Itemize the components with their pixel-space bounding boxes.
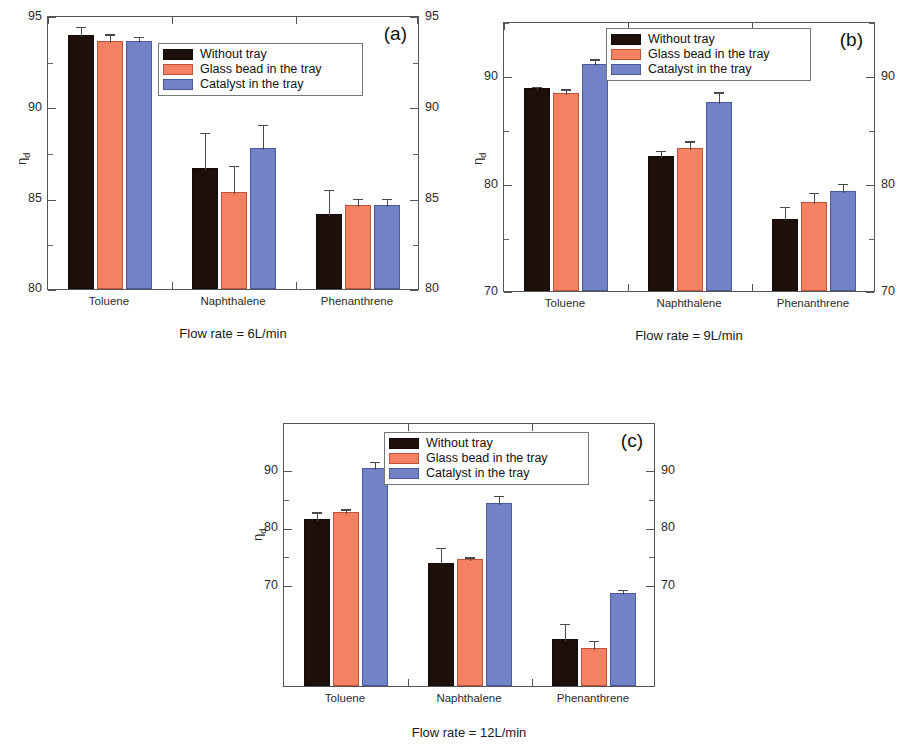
y-tick-label-right-a-90: 90 <box>425 100 455 114</box>
error-cap-a-naphthalene-series1 <box>229 166 239 167</box>
bar-b-phenanthrene-series0 <box>772 219 798 291</box>
error-bar-b-naphthalene-series2 <box>719 92 720 104</box>
panel-tag-c: (c) <box>621 430 643 452</box>
y-tick-label-c-80: 80 <box>244 520 278 534</box>
legend-label-without-tray-c: Without tray <box>426 437 493 450</box>
error-bar-a-naphthalene-series2 <box>263 125 264 151</box>
y-axis-label-a: ηd <box>14 153 32 165</box>
legend-label-without-tray-b: Without tray <box>648 33 715 46</box>
plot-area-a: (a) Without tray Glass bead in the tray … <box>47 16 419 290</box>
bar-b-toluene-series1 <box>553 93 579 291</box>
y-tick-label-right-c-90: 90 <box>661 463 691 477</box>
error-cap-c-naphthalene-series1 <box>465 557 475 558</box>
y-axis-label-b: ηd <box>470 153 488 165</box>
eta-symbol-b: η <box>470 158 485 165</box>
error-bar-c-phenanthrene-series1 <box>594 641 595 651</box>
error-cap-c-naphthalene-series0 <box>436 548 446 549</box>
bar-c-naphthalene-series1 <box>457 559 483 686</box>
legend-row-glass-bead-a: Glass bead in the tray <box>163 62 356 77</box>
legend-swatch-catalyst-b <box>611 64 641 75</box>
bar-a-naphthalene-series1 <box>221 192 247 289</box>
y-tick-label-c-70: 70 <box>244 578 278 592</box>
x-category-label-c-toluene: Toluene <box>283 692 407 704</box>
error-cap-b-toluene-series2 <box>590 59 600 60</box>
error-cap-a-phenanthrene-series1 <box>353 199 363 200</box>
bar-b-naphthalene-series0 <box>648 156 674 291</box>
bar-a-naphthalene-series0 <box>192 168 218 289</box>
error-cap-b-naphthalene-series1 <box>685 141 695 142</box>
bar-a-toluene-series0 <box>68 35 94 289</box>
error-cap-b-phenanthrene-series1 <box>809 193 819 194</box>
y-tick-right-a-80 <box>410 290 418 291</box>
legend-row-catalyst-a: Catalyst in the tray <box>163 77 356 92</box>
y-tick-label-a-90: 90 <box>8 100 42 114</box>
eta-symbol-a: η <box>14 158 29 165</box>
bar-c-phenanthrene-series0 <box>552 639 578 686</box>
error-cap-b-phenanthrene-series0 <box>780 207 790 208</box>
legend-row-without-tray-b: Without tray <box>611 32 804 47</box>
bar-c-phenanthrene-series2 <box>610 593 636 686</box>
x-category-label-a-phenanthrene: Phenanthrene <box>295 295 419 307</box>
bar-a-toluene-series1 <box>97 41 123 289</box>
legend-swatch-without-tray-b <box>611 34 641 45</box>
y-tick-label-right-b-90: 90 <box>881 69 907 83</box>
bar-c-toluene-series0 <box>304 519 330 686</box>
bar-a-naphthalene-series2 <box>250 148 276 289</box>
error-bar-c-phenanthrene-series0 <box>565 624 566 641</box>
caption-b: Flow rate = 9L/min <box>503 328 875 343</box>
legend-row-glass-bead-b: Glass bead in the tray <box>611 47 804 62</box>
error-cap-c-phenanthrene-series2 <box>618 590 628 591</box>
error-cap-a-naphthalene-series0 <box>200 133 210 134</box>
legend-swatch-catalyst-c <box>389 468 419 479</box>
eta-subscript-b: d <box>478 153 488 158</box>
bar-b-phenanthrene-series1 <box>801 202 827 291</box>
error-cap-b-naphthalene-series2 <box>714 92 724 93</box>
error-cap-c-phenanthrene-series1 <box>589 641 599 642</box>
error-cap-c-phenanthrene-series0 <box>560 624 570 625</box>
bar-a-phenanthrene-series1 <box>345 205 371 289</box>
error-cap-a-toluene-series1 <box>105 34 115 35</box>
error-bar-b-phenanthrene-series1 <box>814 193 815 205</box>
caption-a: Flow rate = 6L/min <box>47 326 419 341</box>
bar-a-phenanthrene-series0 <box>316 214 342 289</box>
caption-c: Flow rate = 12L/min <box>283 725 655 740</box>
legend-swatch-glass-bead-a <box>163 64 193 75</box>
bar-b-phenanthrene-series2 <box>830 191 856 291</box>
y-tick-label-right-b-80: 80 <box>881 177 907 191</box>
x-category-label-b-toluene: Toluene <box>503 297 627 309</box>
y-tick-label-b-90: 90 <box>464 69 498 83</box>
error-cap-c-toluene-series1 <box>341 509 351 510</box>
legend-row-without-tray-a: Without tray <box>163 47 356 62</box>
y-tick-label-a-95: 95 <box>8 9 42 23</box>
y-tick-label-right-b-70: 70 <box>881 284 907 298</box>
panel-c: ηd (c) Without tray Glass bead in the tr… <box>226 396 681 751</box>
bar-a-toluene-series2 <box>126 41 152 289</box>
bar-c-toluene-series1 <box>333 512 359 686</box>
error-cap-a-phenanthrene-series0 <box>324 190 334 191</box>
panel-tag-a: (a) <box>384 23 407 45</box>
y-tick-label-a-80: 80 <box>8 281 42 295</box>
eta-subscript-a: d <box>22 153 32 158</box>
error-bar-c-naphthalene-series0 <box>441 548 442 565</box>
y-tick-label-right-a-80: 80 <box>425 281 455 295</box>
legend-label-without-tray-a: Without tray <box>200 48 267 61</box>
bar-b-toluene-series0 <box>524 88 550 291</box>
panel-b: ηd (b) Without tray Glass bead in <box>452 0 907 350</box>
legend-row-catalyst-c: Catalyst in the tray <box>389 466 582 481</box>
error-bar-a-toluene-series0 <box>81 27 82 37</box>
bar-c-phenanthrene-series1 <box>581 648 607 686</box>
y-tick-label-right-c-80: 80 <box>661 520 691 534</box>
legend-label-catalyst-b: Catalyst in the tray <box>648 63 752 76</box>
x-category-label-c-naphthalene: Naphthalene <box>407 692 531 704</box>
error-cap-c-toluene-series2 <box>370 462 380 463</box>
bar-b-toluene-series2 <box>582 64 608 291</box>
error-cap-a-toluene-series0 <box>76 27 86 28</box>
bar-a-phenanthrene-series2 <box>374 205 400 289</box>
error-bar-a-phenanthrene-series0 <box>329 190 330 216</box>
error-bar-a-naphthalene-series0 <box>205 133 206 170</box>
bar-b-naphthalene-series1 <box>677 148 703 291</box>
legend-c: Without tray Glass bead in the tray Cata… <box>384 432 589 485</box>
legend-label-glass-bead-c: Glass bead in the tray <box>426 452 548 465</box>
bar-b-naphthalene-series2 <box>706 102 732 291</box>
legend-swatch-catalyst-a <box>163 79 193 90</box>
